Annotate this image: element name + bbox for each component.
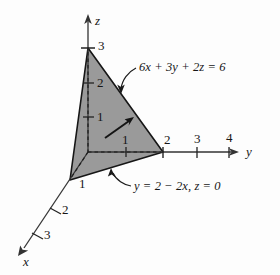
trace-equation-leader	[108, 168, 131, 186]
interior-y-tick-label-1: 1	[122, 133, 129, 146]
plane-diagram-figure: z y x 1 2 3 2 3 4 1 1 2 3 6x + 3y + 2z =…	[0, 0, 280, 275]
y-tick-label-2: 2	[164, 133, 171, 146]
z-tick-label-3: 3	[98, 39, 105, 52]
plane-equation-leader	[117, 68, 136, 94]
z-axis-label: z	[95, 14, 100, 27]
x-tick-label-3: 3	[44, 228, 51, 241]
x-tick-2	[50, 208, 61, 214]
trace-equation-label: y = 2 − 2x, z = 0	[134, 180, 221, 193]
z-tick-label-1: 1	[97, 110, 104, 123]
x-axis	[18, 152, 88, 256]
y-tick-label-4: 4	[226, 131, 233, 144]
x-tick-3	[32, 233, 43, 239]
plane-equation-label: 6x + 3y + 2z = 6	[139, 61, 226, 74]
z-tick-label-2: 2	[97, 76, 104, 89]
x-tick-label-1: 1	[79, 177, 86, 190]
diagram-canvas	[0, 0, 280, 275]
x-axis-label: x	[23, 255, 29, 268]
x-tick-label-2: 2	[62, 203, 69, 216]
y-axis-label: y	[246, 145, 252, 158]
y-tick-label-3: 3	[194, 132, 201, 145]
